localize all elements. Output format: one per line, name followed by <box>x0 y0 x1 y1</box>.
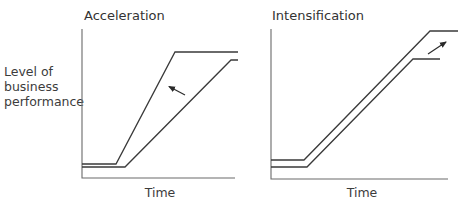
x-axis-label: Time <box>346 185 378 200</box>
arrow-up-right-icon <box>428 42 446 54</box>
y-label-line-3: performance <box>4 94 84 109</box>
panel-acceleration: Acceleration Time <box>82 8 238 200</box>
arrow-left-icon <box>169 87 185 96</box>
panel-title: Acceleration <box>84 8 165 23</box>
y-label-line-1: Level of <box>4 64 54 79</box>
panel-title: Intensification <box>272 8 364 23</box>
curve-new-path <box>271 31 458 160</box>
curve-original-path <box>271 59 440 167</box>
y-label-line-2: business <box>4 79 58 94</box>
diagram-canvas: Level of business performance Accelerati… <box>0 0 462 206</box>
x-axis-label: Time <box>144 185 176 200</box>
y-axis-label: Level of business performance <box>4 64 84 109</box>
curve-original-path <box>82 60 238 167</box>
curve-new-path <box>82 52 238 164</box>
panel-intensification: Intensification Time <box>271 8 458 200</box>
